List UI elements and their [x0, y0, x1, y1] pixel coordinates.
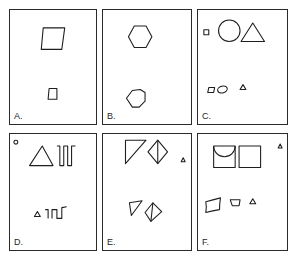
small-square-shape: [48, 89, 57, 100]
square-shape: [239, 146, 261, 168]
distorted-rectangle-shape: [206, 198, 221, 213]
heptagon-shape: [126, 89, 145, 107]
small-triangle-shape: [278, 144, 282, 148]
panel-d-shapes: [10, 134, 96, 250]
panel-f-label: F.: [202, 237, 209, 247]
hexagon-shape: [128, 26, 151, 48]
small-triangle-shape: [181, 158, 185, 162]
small-diamond-shape: [145, 203, 162, 222]
panel-c: C.: [197, 9, 288, 125]
circle-shape: [219, 20, 241, 42]
arc-shape: [214, 146, 236, 157]
panel-f-shapes: [198, 134, 287, 250]
panel-c-label: C.: [202, 111, 211, 121]
small-square-shape: [204, 30, 209, 35]
small-triangle-shape: [34, 212, 40, 217]
panel-a-label: A.: [14, 111, 23, 121]
small-triangle-shape: [240, 85, 246, 90]
parallelogram-shape: [41, 28, 64, 50]
small-right-triangle-shape: [129, 201, 142, 216]
panel-b-label: B.: [107, 111, 116, 121]
small-triangle-right-shape: [250, 199, 256, 204]
panel-e: E.: [102, 133, 192, 251]
panel-e-label: E.: [107, 237, 116, 247]
panel-f: F.: [197, 133, 288, 251]
square-wave-shape: [57, 146, 76, 166]
panel-d: D.: [9, 133, 97, 251]
square-wave-small-shape: [52, 207, 67, 219]
small-parallelogram-shape: [208, 88, 215, 93]
panel-e-shapes: [103, 134, 191, 250]
partial-square-wave-shape: [45, 210, 48, 219]
right-triangle-shape: [125, 140, 146, 163]
panel-c-shapes: [198, 10, 287, 124]
panel-d-label: D.: [14, 237, 23, 247]
ellipse-shape: [217, 85, 228, 94]
panel-b: B.: [102, 9, 192, 125]
triangle-shape: [30, 146, 53, 166]
trapezoid-shape: [230, 200, 240, 206]
panel-a-shapes: [10, 10, 96, 124]
panel-b-shapes: [103, 10, 191, 124]
triangle-shape: [241, 23, 264, 42]
panel-a: A.: [9, 9, 97, 125]
small-circle-shape: [14, 140, 18, 144]
